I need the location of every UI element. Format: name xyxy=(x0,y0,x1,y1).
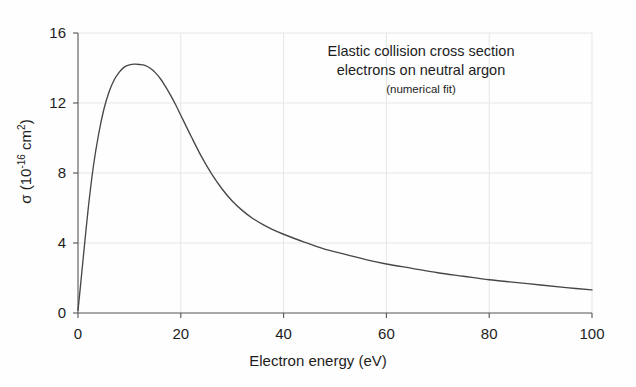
x-axis-title: Electron energy (eV) xyxy=(0,352,636,369)
y-axis-title-exponent: -16 xyxy=(16,154,27,168)
chart-figure: 0481216 020406080100 σ (10-16 cm2) Elect… xyxy=(0,0,636,387)
x-tick-label-40: 40 xyxy=(264,325,304,342)
y-tick-label-8: 8 xyxy=(36,164,66,181)
y-axis-title: σ (10-16 cm2) xyxy=(16,119,34,203)
chart-annotation: Elastic collision cross section electron… xyxy=(296,42,546,97)
x-tick-label-60: 60 xyxy=(366,325,406,342)
x-tick-label-100: 100 xyxy=(572,325,612,342)
y-axis-title-sigma: σ (10 xyxy=(17,169,34,204)
y-tick-label-16: 16 xyxy=(36,24,66,41)
y-tick-label-4: 4 xyxy=(36,234,66,251)
x-tick-label-20: 20 xyxy=(161,325,201,342)
x-tick-label-80: 80 xyxy=(469,325,509,342)
annotation-line-1: Elastic collision cross section xyxy=(296,42,546,61)
y-axis-title-unit-exponent: 2 xyxy=(16,124,27,130)
annotation-line-3: (numerical fit) xyxy=(296,82,546,97)
data-series-line xyxy=(78,64,592,310)
y-tick-label-0: 0 xyxy=(36,304,66,321)
y-tick-label-12: 12 xyxy=(36,94,66,111)
y-axis-title-close-paren: ) xyxy=(17,119,34,124)
annotation-line-2: electrons on neutral argon xyxy=(296,61,546,80)
y-axis-title-container: σ (10-16 cm2) xyxy=(16,77,35,247)
x-tick-label-0: 0 xyxy=(58,325,98,342)
y-axis-title-units: cm xyxy=(17,130,34,154)
